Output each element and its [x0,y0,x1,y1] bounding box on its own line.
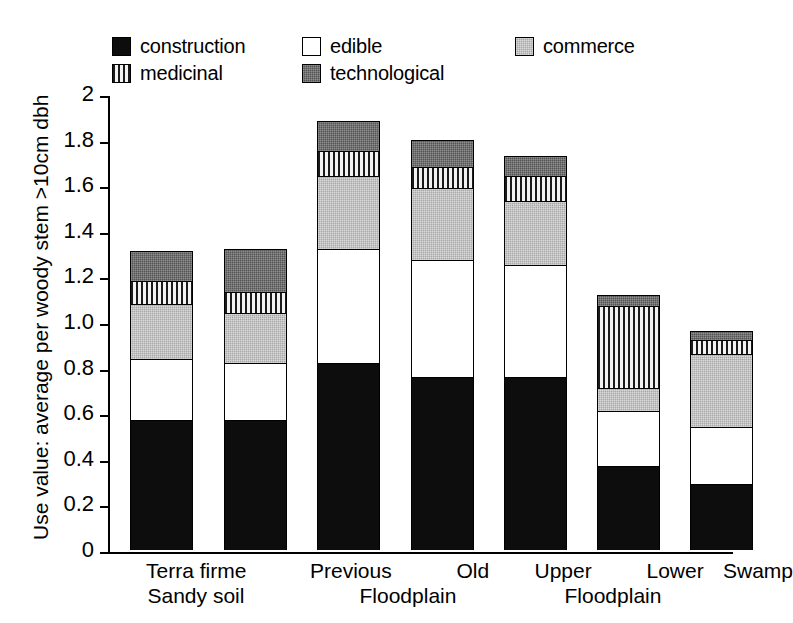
y-axis-tick: 1.4 [100,233,109,235]
y-axis-tick: 1.6 [100,187,109,189]
bar-segment-technological[interactable] [597,295,660,306]
legend-swatch-edible-icon [302,37,321,56]
bar-segment-medicinal[interactable] [224,292,287,313]
bar-column[interactable] [130,251,193,550]
legend-swatch-medicinal-icon [112,64,131,83]
legend-item-edible: edible [302,36,382,56]
bar-segment-technological[interactable] [224,249,287,292]
legend-swatch-technological-icon [302,64,321,83]
legend-item-commerce: commerce [515,36,635,56]
bar-column[interactable] [317,121,380,550]
x-axis-label-terra-firme-sandy-soil-line2: Sandy soil [148,583,245,608]
legend-swatch-construction-icon [112,37,131,56]
bar-segment-construction[interactable] [411,377,474,550]
bar-column[interactable] [504,156,567,550]
bar-segment-medicinal[interactable] [597,306,660,388]
x-axis-label-terra-firme-sandy-soil: Terra firme [146,558,246,583]
x-axis-label-floodplain-2-line2: Floodplain [565,583,662,608]
bar-segment-construction[interactable] [224,420,287,550]
y-axis-tick: 0.2 [100,506,109,508]
legend-label-edible: edible [330,36,382,56]
plot-area: 00.20.40.60.81.01.21.41.61.82 [108,96,733,552]
y-axis-tick: 0.4 [100,461,109,463]
x-axis-label-swamp: Swamp [723,558,793,583]
x-axis-labels: Terra firmeSandy soilPreviousOldFloodpla… [108,558,745,622]
bar-segment-technological[interactable] [690,331,753,340]
y-axis-tick-label: 0.2 [63,493,94,515]
bar-segment-technological[interactable] [317,121,380,151]
bar-segment-medicinal[interactable] [130,281,193,304]
x-axis-label-previous: Previous [310,558,392,583]
bar-segment-technological[interactable] [130,251,193,281]
y-axis-tick-label: 1.0 [63,311,94,333]
bar-segment-edible[interactable] [690,427,753,484]
bar-segment-medicinal[interactable] [411,167,474,188]
bar-segment-edible[interactable] [224,363,287,420]
legend-label-construction: construction [140,36,245,56]
bar-segment-commerce[interactable] [504,201,567,265]
y-axis-tick-label: 0 [82,539,94,561]
y-axis-tick-label: 0.6 [63,402,94,424]
legend-label-commerce: commerce [543,36,635,56]
y-axis-tick: 1.2 [100,278,109,280]
bar-segment-commerce[interactable] [597,388,660,411]
y-axis-tick-label: 1.2 [63,265,94,287]
bar-segment-edible[interactable] [317,249,380,363]
chart-legend: construction medicinal edible technologi… [112,36,732,90]
bar-segment-medicinal[interactable] [690,340,753,354]
bar-segment-construction[interactable] [690,484,753,550]
bar-column[interactable] [411,140,474,550]
bar-segment-technological[interactable] [411,140,474,167]
legend-label-technological: technological [330,63,444,83]
bar-segment-construction[interactable] [317,363,380,550]
bar-segment-edible[interactable] [504,265,567,377]
y-axis-tick: 2 [100,96,109,98]
y-axis-tick: 1.0 [100,324,109,326]
x-axis-label-floodplain-1-line2: Floodplain [360,583,457,608]
legend-label-medicinal: medicinal [140,63,223,83]
bar-column[interactable] [224,249,287,550]
bar-segment-construction[interactable] [130,420,193,550]
y-axis-tick: 0.8 [100,370,109,372]
x-axis-label-upper: Upper [535,558,592,583]
y-axis-tick: 0 [100,552,109,554]
bar-segment-edible[interactable] [411,260,474,376]
bar-segment-medicinal[interactable] [317,151,380,176]
bar-column[interactable] [597,295,660,550]
legend-item-construction: construction [112,36,245,56]
bar-segment-edible[interactable] [597,411,660,466]
bar-segment-commerce[interactable] [317,176,380,249]
bar-segment-technological[interactable] [504,156,567,177]
legend-item-technological: technological [302,63,444,83]
y-axis-tick: 0.6 [100,415,109,417]
bar-segment-commerce[interactable] [130,304,193,359]
y-axis-tick-label: 1.6 [63,174,94,196]
legend-item-medicinal: medicinal [112,63,223,83]
y-axis-title: Use value: average per woody stem >10cm … [22,84,60,540]
bar-segment-medicinal[interactable] [504,176,567,201]
y-axis-tick-label: 1.4 [63,220,94,242]
y-axis-tick: 1.8 [100,142,109,144]
x-axis-line [108,552,733,554]
y-axis-tick-label: 0.4 [63,448,94,470]
bar-segment-commerce[interactable] [224,313,287,363]
bar-segment-construction[interactable] [504,377,567,550]
bar-segment-commerce[interactable] [411,188,474,261]
y-axis-tick-label: 1.8 [63,129,94,151]
legend-swatch-commerce-icon [515,37,534,56]
x-axis-label-lower: Lower [647,558,704,583]
bar-segment-edible[interactable] [130,359,193,421]
y-axis-tick-label: 2 [82,83,94,105]
x-axis-label-old: Old [457,558,490,583]
bar-column[interactable] [690,331,753,550]
y-axis-tick-label: 0.8 [63,357,94,379]
bar-segment-construction[interactable] [597,466,660,550]
bar-segment-commerce[interactable] [690,354,753,427]
